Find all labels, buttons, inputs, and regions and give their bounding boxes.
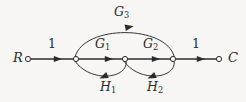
branch-label-n1-to-n3-base: G xyxy=(114,4,124,19)
branch-label-n3-to-c-base: 1 xyxy=(192,36,200,51)
branch-r-to-n1 xyxy=(31,56,73,62)
branch-n1-to-n2 xyxy=(79,56,122,62)
branch-n2-to-n3 xyxy=(128,56,170,62)
branch-label-n3-to-n2-sub: 2 xyxy=(158,85,163,95)
branch-arc-n3-to-n2 xyxy=(124,62,174,77)
branch-label-n2-to-n1-base: H xyxy=(100,79,111,94)
branch-label-n1-to-n3-sub: 3 xyxy=(124,10,129,20)
arrowhead-n2-to-n1 xyxy=(100,72,109,79)
arrowhead-n3-to-n2 xyxy=(148,72,157,79)
branch-label-n1-to-n2-base: G xyxy=(95,36,105,51)
node-label-R: R xyxy=(13,51,23,64)
node-n3 xyxy=(170,56,175,61)
branch-label-n2-to-n1: H1 xyxy=(100,81,116,94)
branch-n3-to-c xyxy=(176,56,216,62)
arrowhead-n3-to-c xyxy=(197,56,205,62)
arrowhead-n2-to-n3 xyxy=(152,56,160,62)
node-n2 xyxy=(122,56,127,61)
arrowhead-r-to-n1 xyxy=(54,56,62,62)
branch-label-n3-to-n2-base: H xyxy=(147,79,158,94)
branch-arc-n1-to-n3 xyxy=(75,33,174,57)
branch-label-n3-to-c: 1 xyxy=(192,38,200,51)
branch-n2-to-n1-arc xyxy=(75,62,126,79)
node-n1 xyxy=(73,56,78,61)
arrowhead-n1-to-n2 xyxy=(105,56,113,62)
branch-n3-to-n2-arc xyxy=(124,62,174,79)
node-C xyxy=(216,56,221,61)
branch-label-n1-to-n2-sub: 1 xyxy=(105,42,110,52)
node-R xyxy=(25,56,30,61)
node-label-C: C xyxy=(228,51,238,64)
branch-label-r-to-n1: 1 xyxy=(48,38,56,51)
branch-n1-to-n3-arc xyxy=(75,25,174,57)
branch-label-n2-to-n3-sub: 2 xyxy=(153,42,158,52)
arrowhead-n1-to-n3 xyxy=(125,25,134,32)
branch-label-n1-to-n2: G1 xyxy=(95,38,110,51)
branch-arc-n2-to-n1 xyxy=(75,62,126,77)
branch-label-n3-to-n2: H2 xyxy=(147,81,163,94)
branch-label-n2-to-n3: G2 xyxy=(143,38,158,51)
branch-label-n1-to-n3: G3 xyxy=(114,6,129,19)
branch-label-n2-to-n3-base: G xyxy=(143,36,153,51)
branch-label-n2-to-n1-sub: 1 xyxy=(111,85,116,95)
branch-label-r-to-n1-base: 1 xyxy=(48,36,56,51)
signal-flow-graph-figure: R C 1 G1 G2 1 G3 H1 H2 xyxy=(0,0,246,102)
